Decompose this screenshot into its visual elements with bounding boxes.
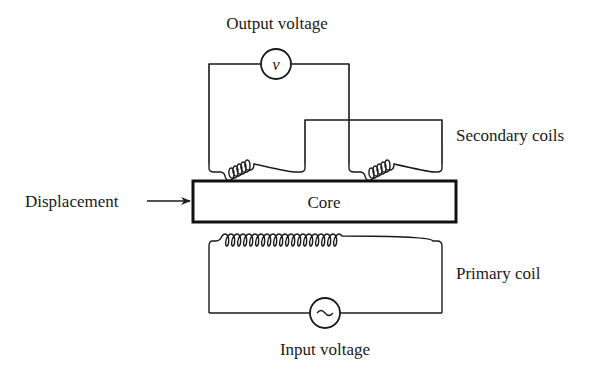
output-voltage-label: Output voltage	[226, 14, 328, 33]
secondary-coils-label: Secondary coils	[456, 126, 564, 145]
primary-coil-label: Primary coil	[456, 264, 541, 283]
ac-source-icon	[310, 298, 340, 328]
voltmeter-icon: v	[261, 49, 291, 79]
core: Core	[193, 181, 456, 222]
wire-secondary-link	[305, 120, 442, 164]
core-label: Core	[307, 193, 340, 212]
displacement-label: Displacement	[25, 192, 119, 211]
secondary-circuit	[209, 64, 442, 164]
secondary-coil-left-icon	[209, 160, 305, 180]
input-voltage-label: Input voltage	[280, 340, 370, 359]
wire-secondary-left	[209, 64, 261, 164]
wire-secondary-right	[291, 64, 349, 164]
lvdt-diagram: Output voltage v Secondary coils Displac…	[0, 0, 608, 371]
secondary-coil-right-icon	[349, 160, 442, 180]
voltmeter-symbol: v	[272, 56, 280, 73]
